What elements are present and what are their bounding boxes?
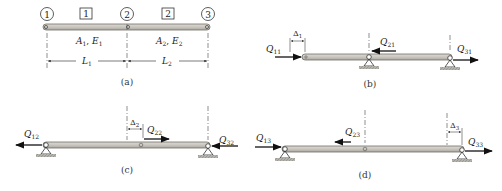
node-label-2: 2	[121, 8, 134, 21]
beam-c	[43, 142, 210, 148]
delta-1-label: Δ1	[293, 29, 302, 39]
node-label-3: 3	[202, 8, 215, 21]
dimension-L1: L1	[48, 56, 126, 67]
force-Q13: Q13	[255, 133, 281, 147]
force-Q23: Q23	[335, 127, 360, 142]
svg-text:L1: L1	[81, 56, 92, 67]
panel-d: Δ3 Q13 Q23 Q33 (d)	[255, 110, 492, 180]
panel-b: Δ1 Q11 Q21 Q31 (b)	[266, 29, 478, 89]
force-Q12: Q12	[16, 129, 42, 145]
element-label-2: 2	[162, 8, 174, 19]
beam-d	[282, 146, 464, 152]
panel-a: 1 2 3 1 2 A1, E1 A2, E2 L1	[41, 8, 215, 88]
force-Q31: Q31	[453, 44, 478, 60]
svg-text:Q12: Q12	[24, 129, 39, 140]
axial-member-diagram: 1 2 3 1 2 A1, E1 A2, E2 L1	[0, 0, 502, 191]
svg-text:Q13: Q13	[256, 133, 271, 144]
svg-text:2: 2	[165, 9, 171, 19]
element1-properties: A1, E1	[75, 36, 102, 47]
delta-3-label: Δ3	[450, 121, 460, 131]
force-Q22: Q22	[144, 125, 169, 139]
svg-text:2: 2	[124, 10, 130, 20]
element2-properties: A2, E2	[155, 36, 183, 47]
svg-text:Q32: Q32	[219, 135, 234, 146]
panel-c: Δ2 Q12 Q22 Q32 (c)	[16, 106, 238, 175]
beam-b	[302, 54, 452, 60]
delta-2-label: Δ2	[130, 118, 139, 128]
caption-a: (a)	[121, 77, 133, 87]
svg-text:1: 1	[44, 10, 50, 20]
dimension-L2: L2	[128, 56, 207, 67]
caption-b: (b)	[364, 79, 377, 89]
force-Q11: Q11	[266, 44, 301, 57]
svg-text:1: 1	[83, 9, 89, 19]
force-Q32: Q32	[212, 135, 238, 146]
svg-text:Q33: Q33	[468, 137, 483, 148]
svg-text:Q23: Q23	[345, 127, 360, 138]
svg-text:Q31: Q31	[457, 44, 472, 55]
element-label-1: 1	[80, 8, 92, 19]
node-label-1: 1	[41, 8, 54, 21]
caption-c: (c)	[121, 165, 133, 175]
force-Q21: Q21	[372, 37, 396, 51]
svg-text:Q11: Q11	[266, 44, 281, 55]
svg-text:Q22: Q22	[147, 125, 162, 136]
svg-text:Q21: Q21	[380, 37, 395, 48]
force-Q33: Q33	[465, 137, 492, 151]
caption-d: (d)	[359, 170, 372, 180]
svg-text:L2: L2	[161, 56, 172, 67]
svg-text:3: 3	[205, 10, 211, 20]
